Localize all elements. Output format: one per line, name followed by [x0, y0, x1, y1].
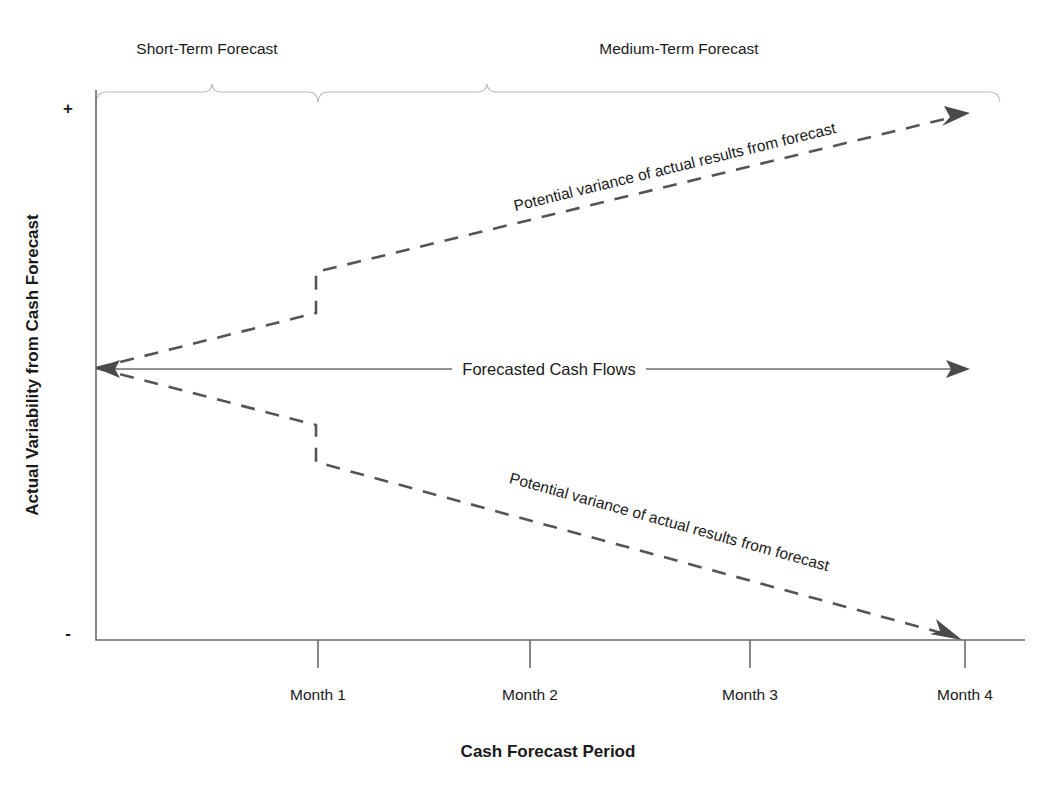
short-term-bracket: Short-Term Forecast — [96, 40, 318, 102]
upper-variance-arrowhead-icon — [942, 106, 970, 126]
x-tick-label-month-1: Month 1 — [290, 686, 346, 703]
short-term-bracket-label: Short-Term Forecast — [136, 40, 278, 57]
upper-variance-band-label: Potential variance of actual results fro… — [512, 119, 838, 214]
y-axis-plus-marker: + — [63, 99, 73, 118]
axes-group: Month 1 Month 2 Month 3 Month 4 + - Actu… — [23, 90, 1025, 761]
medium-term-bracket-path — [318, 84, 1000, 102]
x-tick-label-month-4: Month 4 — [937, 686, 993, 703]
lower-variance-arrowhead-icon — [930, 619, 962, 640]
upper-variance-band: Potential variance of actual results fro… — [96, 106, 970, 368]
forecast-flow-label: Forecasted Cash Flows — [462, 360, 635, 378]
y-axis-minus-marker: - — [65, 624, 71, 643]
forecasted-cash-flows-arrow: Forecasted Cash Flows — [96, 360, 970, 378]
y-axis-title: Actual Variability from Cash Forecast — [23, 214, 42, 516]
lower-variance-band-path — [96, 368, 949, 635]
cash-forecast-diagram: Short-Term Forecast Medium-Term Forecast… — [0, 0, 1052, 795]
x-tick-label-month-3: Month 3 — [722, 686, 778, 703]
upper-variance-band-path — [96, 116, 957, 368]
diagram-canvas: Short-Term Forecast Medium-Term Forecast… — [0, 0, 1052, 795]
short-term-bracket-path — [96, 84, 318, 102]
x-tick-label-month-2: Month 2 — [502, 686, 558, 703]
lower-variance-band: Potential variance of actual results fro… — [96, 368, 962, 640]
medium-term-bracket-label: Medium-Term Forecast — [599, 40, 759, 57]
x-axis-title: Cash Forecast Period — [461, 742, 636, 761]
medium-term-bracket: Medium-Term Forecast — [318, 40, 1000, 102]
